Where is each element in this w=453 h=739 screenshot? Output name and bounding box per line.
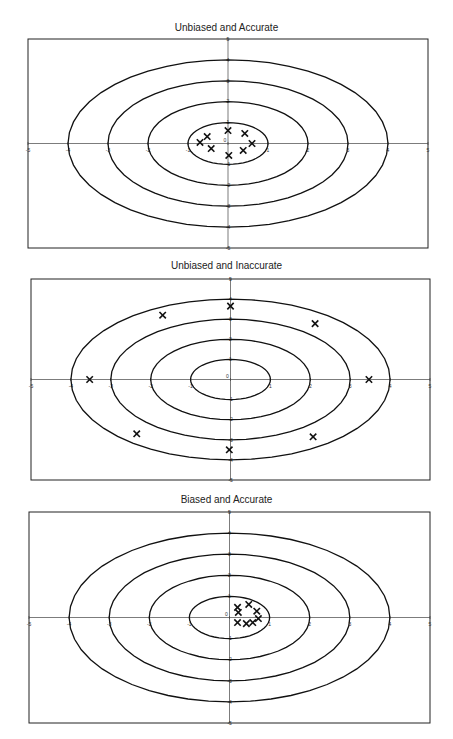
shot-marker — [255, 615, 261, 621]
y-tick-label: 5 — [228, 509, 231, 515]
shot-marker — [243, 620, 249, 626]
y-tick-label: -5 — [227, 720, 232, 726]
y-tick-label: 5 — [227, 36, 230, 42]
x-tick-label: 0 — [224, 137, 227, 143]
shot-marker — [242, 130, 248, 136]
shot-marker — [234, 619, 240, 625]
x-tick-label: 0 — [226, 373, 229, 379]
x-tick-label: 5 — [429, 383, 432, 389]
shot-marker — [226, 152, 232, 158]
shot-marker — [235, 609, 241, 615]
y-tick-label: -5 — [228, 477, 233, 483]
x-tick-label: -5 — [29, 383, 34, 389]
y-tick-label: 5 — [229, 276, 232, 282]
y-tick-label: -5 — [226, 245, 231, 251]
shot-marker — [204, 133, 210, 139]
shot-marker — [134, 431, 140, 437]
shot-marker — [197, 139, 203, 145]
x-tick-label: -5 — [27, 621, 32, 627]
x-tick-label: 5 — [429, 621, 432, 627]
shot-marker — [240, 147, 246, 153]
shot-marker — [226, 447, 232, 453]
shot-marker — [250, 619, 256, 625]
shot-marker — [254, 608, 260, 614]
shot-marker — [246, 601, 252, 607]
shot-marker — [310, 434, 316, 440]
charts-canvas: -5-4-3-2-1012345-5-4-3-2-112345-5-4-3-2-… — [0, 0, 453, 739]
shot-marker — [159, 312, 165, 318]
shot-marker — [312, 320, 318, 326]
x-tick-label: 5 — [427, 147, 430, 153]
x-tick-label: -5 — [26, 147, 31, 153]
shot-marker — [208, 145, 214, 151]
x-tick-label: 0 — [225, 611, 228, 617]
